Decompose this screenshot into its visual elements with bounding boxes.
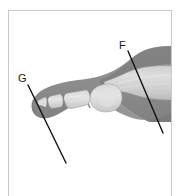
label-g: G	[18, 73, 27, 84]
film-grain-overlay	[9, 11, 171, 195]
radiograph-image	[0, 0, 180, 196]
figure-page: F G	[0, 0, 180, 196]
label-f: F	[119, 40, 126, 51]
